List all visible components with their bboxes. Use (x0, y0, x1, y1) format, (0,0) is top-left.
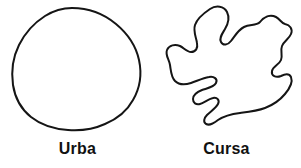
caption-cursa: Cursa (152, 140, 301, 158)
urba-shape-area (0, 0, 155, 138)
caption-urba: Urba (0, 140, 155, 158)
panel-urba: Urba (0, 0, 155, 168)
convoluted-irregular-blob-outline (152, 0, 301, 138)
cursa-shape-area (152, 0, 301, 138)
panel-cursa: Cursa (152, 0, 301, 168)
shape-comparison-figure: Urba Cursa (0, 0, 301, 168)
smooth-round-blob-outline (0, 0, 155, 138)
